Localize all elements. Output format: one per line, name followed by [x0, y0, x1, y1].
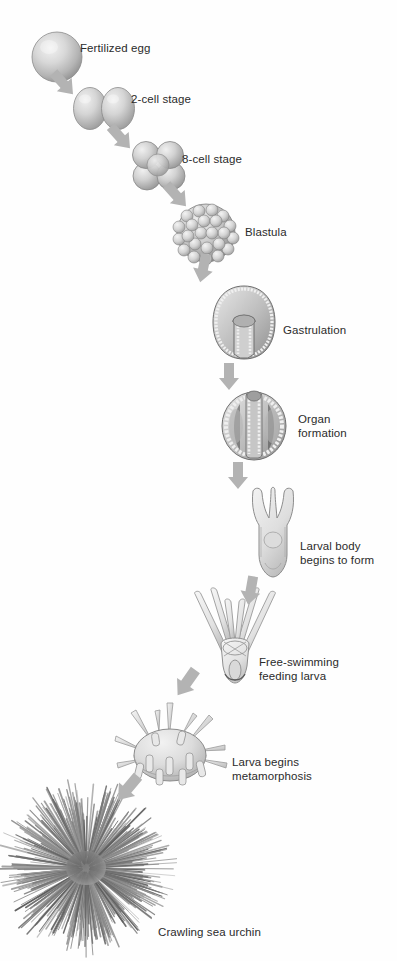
label-crawling-sea-urchin: Crawling sea urchin: [158, 925, 261, 939]
stage-art-organ-formation: [220, 388, 288, 462]
sea-urchin-lifecycle-diagram: Fertilized egg 2-cell stage 8-cell stage…: [0, 0, 397, 961]
label-eight-cell-stage: 8-cell stage: [182, 152, 242, 166]
label-free-swimming-larva: Free-swimming feeding larva: [259, 655, 339, 683]
stage-art-gastrulation: [210, 284, 278, 362]
label-two-cell-stage: 2-cell stage: [131, 92, 191, 106]
arrow-organ-to-larval: [228, 462, 248, 490]
label-organ-formation: Organ formation: [298, 412, 347, 440]
label-fertilized-egg: Fertilized egg: [80, 41, 150, 55]
stage-art-larval-body: [245, 485, 301, 578]
stage-art-two-cell-stage: [73, 87, 135, 130]
label-larva-metamorphosis: Larva begins metamorphosis: [232, 755, 312, 783]
stage-art-crawling-sea-urchin: [12, 796, 164, 948]
arrow-gastrula-to-organ: [219, 363, 239, 391]
label-blastula: Blastula: [245, 225, 287, 239]
label-larval-body: Larval body begins to form: [300, 539, 374, 567]
label-gastrulation: Gastrulation: [283, 323, 346, 337]
